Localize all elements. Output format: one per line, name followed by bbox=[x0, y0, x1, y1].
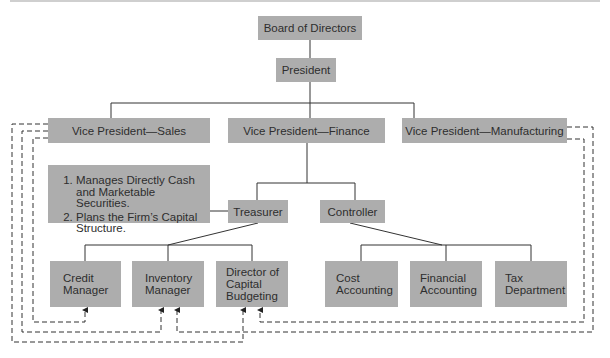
tax-department-label-line: Department bbox=[505, 284, 565, 296]
financial-accounting-box: Financial Accounting bbox=[410, 261, 482, 307]
inventory-manager-box: Inventory Manager bbox=[132, 261, 204, 307]
board-of-directors-box: Board of Directors bbox=[258, 16, 362, 40]
inventory-manager-label-line: Inventory bbox=[145, 272, 192, 284]
vp-sales-box: Vice President—Sales bbox=[48, 118, 210, 143]
vp-manufacturing-box: Vice President—Manufacturing bbox=[402, 118, 567, 143]
vp-finance-label: Vice President—Finance bbox=[243, 125, 369, 137]
cost-accounting-label-line: Cost bbox=[336, 272, 393, 284]
controller-box: Controller bbox=[320, 200, 385, 223]
credit-manager-label-line: Manager bbox=[63, 284, 108, 296]
cost-accounting-box: Cost Accounting bbox=[325, 261, 398, 307]
director-capital-budgeting-box: Director of Capital Budgeting bbox=[216, 261, 288, 307]
treasurer-duties-list: Manages Directly Cash and Marketable Sec… bbox=[62, 175, 202, 235]
treasurer-duty-item: Manages Directly Cash and Marketable Sec… bbox=[76, 175, 202, 210]
treasurer-duty-item: Plans the Firm’s Capital Structure. bbox=[76, 212, 202, 235]
credit-manager-label-line: Credit bbox=[63, 272, 108, 284]
director-capital-budgeting-label-line: Budgeting bbox=[226, 290, 279, 302]
financial-accounting-label-line: Accounting bbox=[420, 284, 477, 296]
president-label: President bbox=[282, 64, 331, 76]
director-capital-budgeting-label-line: Capital bbox=[226, 278, 279, 290]
treasurer-note-box: Manages Directly Cash and Marketable Sec… bbox=[48, 165, 210, 223]
vp-manufacturing-label: Vice President—Manufacturing bbox=[405, 125, 563, 137]
cost-accounting-label-line: Accounting bbox=[336, 284, 393, 296]
treasurer-label: Treasurer bbox=[233, 206, 282, 218]
tax-department-box: Tax Department bbox=[495, 261, 567, 307]
financial-accounting-label-line: Financial bbox=[420, 272, 477, 284]
board-of-directors-label: Board of Directors bbox=[264, 22, 357, 34]
president-box: President bbox=[276, 58, 336, 82]
vp-sales-label: Vice President—Sales bbox=[72, 125, 186, 137]
director-capital-budgeting-label-line: Director of bbox=[226, 266, 279, 278]
tax-department-label-line: Tax bbox=[505, 272, 565, 284]
treasurer-box: Treasurer bbox=[228, 200, 288, 223]
controller-label: Controller bbox=[328, 206, 378, 218]
credit-manager-box: Credit Manager bbox=[50, 261, 121, 307]
vp-finance-box: Vice President—Finance bbox=[228, 118, 385, 143]
inventory-manager-label-line: Manager bbox=[145, 284, 192, 296]
